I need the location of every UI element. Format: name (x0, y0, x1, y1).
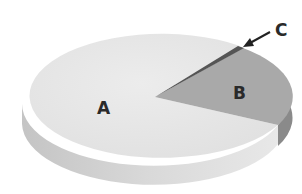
slice-label-a: A (97, 98, 111, 118)
pie-chart: A B C (0, 0, 302, 194)
slice-label-c: C (275, 20, 287, 40)
arrow-icon (243, 32, 270, 47)
slice-label-b: B (233, 83, 246, 103)
